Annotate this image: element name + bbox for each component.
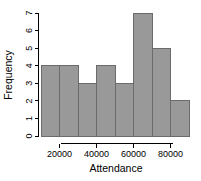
- x-axis-ticks: 20000400006000080000: [47, 144, 183, 160]
- y-tick-label: 7: [24, 10, 34, 15]
- y-tick-label: 6: [24, 28, 34, 33]
- histogram-bar: [171, 101, 190, 136]
- y-tick-label: 4: [24, 63, 34, 68]
- y-axis-ticks: 01234567: [24, 10, 38, 138]
- x-axis: 20000400006000080000: [47, 144, 183, 160]
- x-axis-title: Attendance: [89, 162, 142, 174]
- x-tick-label: 80000: [158, 149, 183, 159]
- y-tick-label: 2: [24, 98, 34, 103]
- histogram-bar: [115, 83, 134, 136]
- histogram-plot: 01234567 20000400006000080000 Attendance…: [0, 0, 201, 181]
- y-tick-label: 3: [24, 81, 34, 86]
- y-axis-title: Frequency: [2, 49, 14, 99]
- histogram-bar: [134, 13, 153, 136]
- histogram-canvas: 01234567 20000400006000080000 Attendance…: [0, 0, 201, 181]
- x-tick-label: 40000: [84, 149, 109, 159]
- x-tick-label: 60000: [121, 149, 146, 159]
- y-axis: 01234567: [24, 10, 38, 138]
- histogram-bar: [60, 66, 79, 136]
- histogram-bar: [78, 83, 97, 136]
- histogram-bar: [152, 48, 171, 136]
- y-tick-label: 5: [24, 46, 34, 51]
- y-tick-label: 0: [24, 133, 34, 138]
- histogram-bar: [97, 66, 116, 136]
- histogram-bars: [41, 13, 189, 136]
- y-tick-label: 1: [24, 116, 34, 121]
- histogram-bar: [41, 66, 60, 136]
- x-tick-label: 20000: [47, 149, 72, 159]
